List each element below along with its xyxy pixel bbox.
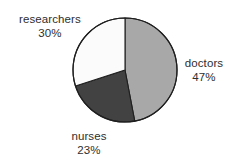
- pie-label-researchers-value: 30%: [8, 27, 92, 41]
- pie-label-doctors-name: doctors: [178, 57, 230, 71]
- pie-chart: researchers 30% doctors 47% nurses 23%: [0, 0, 230, 164]
- pie-label-doctors: doctors 47%: [178, 57, 230, 84]
- pie-label-nurses-name: nurses: [56, 130, 122, 144]
- pie-label-nurses: nurses 23%: [56, 130, 122, 157]
- pie-label-researchers: researchers 30%: [8, 13, 92, 40]
- pie-slice-doctors: [125, 18, 177, 121]
- pie-label-doctors-value: 47%: [178, 71, 230, 85]
- pie-label-researchers-name: researchers: [8, 13, 92, 27]
- pie-label-nurses-value: 23%: [56, 144, 122, 158]
